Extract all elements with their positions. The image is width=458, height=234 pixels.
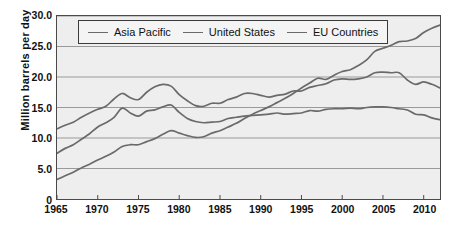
y-tick-label: 5.0 [18, 164, 52, 175]
x-tick-label: 1990 [241, 204, 281, 215]
legend: Asia PacificUnited StatesEU Countries [78, 20, 388, 44]
legend-label: Asia Pacific [114, 26, 171, 38]
y-tick-label: 30.0 [18, 10, 52, 21]
x-tick-label: 2010 [405, 204, 445, 215]
y-tick-label: 25.0 [18, 41, 52, 52]
y-tick-label: 20.0 [18, 71, 52, 82]
series-line-united-states [57, 72, 440, 129]
y-tick-label: 15.0 [18, 102, 52, 113]
legend-line-icon [287, 32, 307, 33]
series-line-asia-pacific [57, 25, 440, 179]
legend-label: EU Countries [313, 26, 378, 38]
legend-line-icon [183, 32, 203, 33]
x-axis-tick-labels: 1965197019751980198519901995200020052010 [0, 204, 458, 224]
x-tick-label: 2005 [364, 204, 404, 215]
legend-item-asia-pacific[interactable]: Asia Pacific [88, 26, 171, 38]
y-axis-tick-labels: 05.010.015.020.025.030.0 [8, 0, 52, 234]
legend-line-icon [88, 32, 108, 33]
line-chart: Million barrels per day 05.010.015.020.0… [0, 0, 458, 234]
x-tick-label: 1995 [282, 204, 322, 215]
x-tick-label: 2000 [323, 204, 363, 215]
legend-item-eu-countries[interactable]: EU Countries [287, 26, 378, 38]
legend-item-united-states[interactable]: United States [183, 26, 275, 38]
legend-label: United States [209, 26, 275, 38]
x-tick-label: 1980 [159, 204, 199, 215]
y-tick-label: 10.0 [18, 133, 52, 144]
series-line-eu-countries [57, 105, 440, 153]
x-tick-label: 1970 [77, 204, 117, 215]
x-tick-label: 1975 [118, 204, 158, 215]
x-tick-label: 1985 [200, 204, 240, 215]
x-tick-label: 1965 [36, 204, 76, 215]
